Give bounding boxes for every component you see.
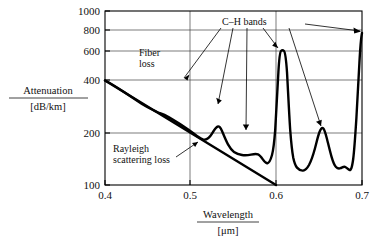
chart-svg: 1000 800 600 400 200 100 0.4 0.5 0.6 0.7… xyxy=(0,0,371,244)
chart-background xyxy=(0,0,371,244)
fiber-loss-label-line2: loss xyxy=(139,58,155,69)
y-axis-units: [dB/km] xyxy=(30,101,66,112)
rayleigh-label-line2: scattering loss xyxy=(113,154,170,165)
ch-bands-label: C–H bands xyxy=(222,16,267,27)
y-tick-label-400: 400 xyxy=(84,74,101,86)
y-axis-title: Attenuation xyxy=(23,85,73,96)
x-tick-label-0.5: 0.5 xyxy=(183,189,197,201)
x-axis-title: Wavelength xyxy=(203,209,254,220)
rayleigh-label-line1: Rayleigh xyxy=(113,143,149,154)
attenuation-vs-wavelength-chart: 1000 800 600 400 200 100 0.4 0.5 0.6 0.7… xyxy=(0,0,371,244)
fiber-loss-label-line1: Fiber xyxy=(139,47,161,58)
y-tick-label-800: 800 xyxy=(84,24,101,36)
y-tick-label-200: 200 xyxy=(84,127,101,139)
x-tick-label-0.6: 0.6 xyxy=(269,189,283,201)
y-tick-label-600: 600 xyxy=(84,45,101,57)
x-tick-label-0.4: 0.4 xyxy=(98,189,112,201)
x-tick-label-0.7: 0.7 xyxy=(355,189,369,201)
y-tick-label-1000: 1000 xyxy=(78,5,101,17)
x-axis-units: [μm] xyxy=(218,225,239,236)
ch-bands-annotation: C–H bands xyxy=(219,16,271,28)
